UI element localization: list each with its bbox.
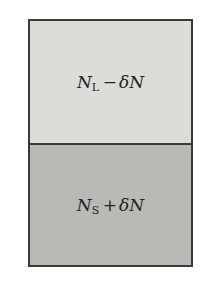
delta-term: δN [119,72,144,92]
symbol: N [77,72,92,92]
subscript: L [92,81,100,94]
lower-compartment: NS+δN [30,145,191,265]
upper-compartment-label: NL−δN [77,72,144,92]
lower-compartment-label: NS+δN [77,195,144,215]
operator: − [103,72,117,92]
operator: + [103,195,117,215]
symbol: N [77,195,92,215]
delta-term: δN [119,195,144,215]
subscript: S [92,204,100,217]
upper-compartment: NL−δN [30,21,191,143]
compartment-box: NL−δN NS+δN [28,19,193,267]
